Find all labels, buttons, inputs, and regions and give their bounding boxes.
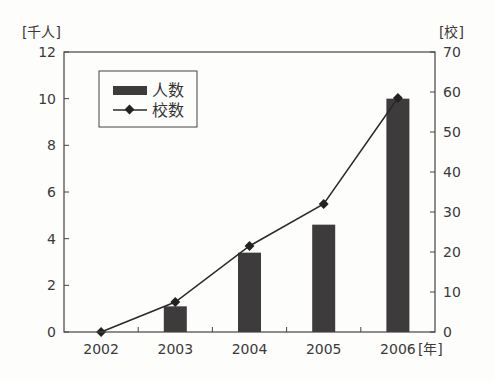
legend-label-schools: 校数 bbox=[152, 101, 184, 120]
left-tick-label: 12 bbox=[38, 44, 56, 60]
x-tick-label: 2003 bbox=[157, 341, 193, 357]
left-tick-label: 6 bbox=[47, 184, 56, 200]
right-tick-label: 60 bbox=[443, 84, 461, 100]
right-tick-label: 20 bbox=[443, 244, 461, 260]
right-tick-label: 30 bbox=[443, 204, 461, 220]
left-tick-label: 4 bbox=[47, 231, 56, 247]
bar bbox=[386, 99, 409, 332]
right-axis-unit: [校] bbox=[439, 24, 464, 40]
bar bbox=[312, 225, 335, 332]
legend-bar-swatch bbox=[113, 86, 147, 95]
x-tick-label: 2005 bbox=[306, 341, 342, 357]
left-tick-label: 8 bbox=[47, 137, 56, 153]
right-tick-label: 40 bbox=[443, 164, 461, 180]
diamond-marker-icon bbox=[319, 199, 329, 209]
right-tick-label: 70 bbox=[443, 44, 461, 60]
left-tick-label: 2 bbox=[47, 277, 56, 293]
right-tick-label: 50 bbox=[443, 124, 461, 140]
x-tick-label: 2004 bbox=[232, 341, 268, 357]
left-tick-label: 0 bbox=[47, 324, 56, 340]
right-tick-label: 0 bbox=[443, 324, 452, 340]
legend: 人数 校数 bbox=[99, 71, 197, 127]
bar bbox=[164, 306, 187, 332]
left-tick-label: 10 bbox=[38, 91, 56, 107]
right-tick-label: 10 bbox=[443, 284, 461, 300]
left-axis-unit: [千人] bbox=[22, 24, 61, 40]
bar bbox=[238, 253, 261, 332]
x-tick-label: 2002 bbox=[83, 341, 119, 357]
chart: 024681012 010203040506070 20022003200420… bbox=[0, 0, 494, 380]
x-axis-unit: [年] bbox=[418, 341, 443, 357]
legend-label-people: 人数 bbox=[152, 81, 184, 100]
x-tick-label: 2006 bbox=[380, 341, 416, 357]
